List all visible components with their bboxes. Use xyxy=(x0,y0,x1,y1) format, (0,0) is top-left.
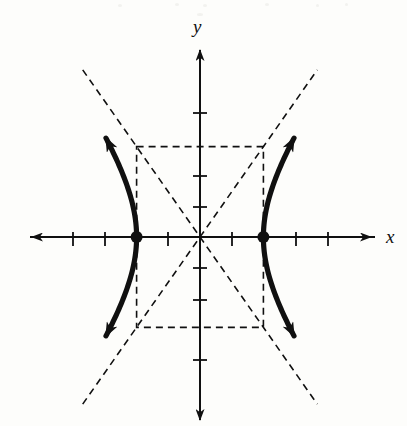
vertex-right-dot xyxy=(257,231,269,243)
axes-group xyxy=(30,50,375,420)
graph-canvas xyxy=(0,0,407,426)
right-branch-lower xyxy=(263,237,294,336)
left-branch-lower xyxy=(106,237,137,336)
y-axis-label: y xyxy=(193,17,201,36)
left-branch-upper xyxy=(106,138,137,237)
right-branch-upper xyxy=(263,138,294,237)
hyperbola-figure: x y xyxy=(0,0,407,426)
x-axis-label: x xyxy=(386,227,394,246)
vertex-left-dot xyxy=(131,231,143,243)
